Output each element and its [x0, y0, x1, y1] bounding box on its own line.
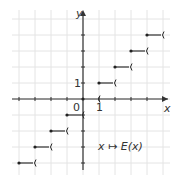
origin-label: 0: [73, 101, 80, 114]
floor-function-chart: y x 0 1 1 x ↦ E(x): [0, 0, 177, 183]
y-axis-label: y: [75, 7, 83, 20]
y-tick-label-1: 1: [74, 77, 81, 90]
x-tick-label-1: 1: [96, 101, 103, 114]
x-axis-label: x: [163, 102, 171, 115]
function-label: x ↦ E(x): [97, 140, 143, 153]
